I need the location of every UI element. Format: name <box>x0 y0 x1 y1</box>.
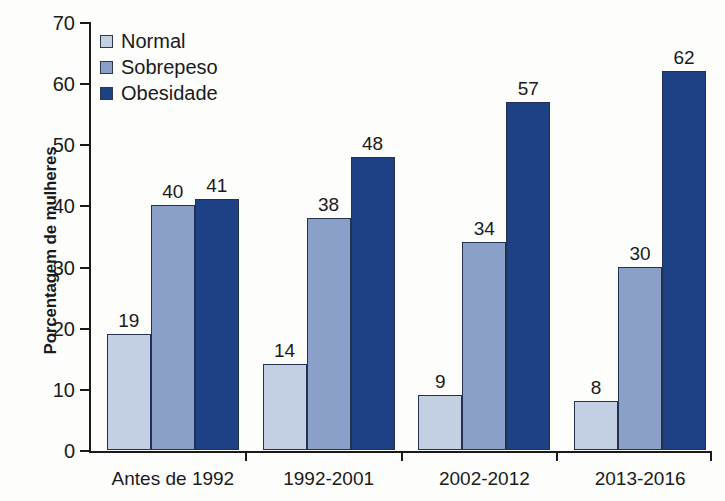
bar: 38 <box>307 218 351 450</box>
bar-value-label: 14 <box>274 340 295 362</box>
y-tick: 10 <box>80 389 89 391</box>
y-tick-label: 0 <box>64 440 75 463</box>
y-tick: 0 <box>80 450 89 452</box>
x-category-label: Antes de 1992 <box>112 468 235 490</box>
y-axis-line <box>89 22 91 453</box>
bar-chart: Porcentagem de mulheres 010203040506070 … <box>0 0 725 501</box>
x-category-label: 2002-2012 <box>439 468 530 490</box>
bar: 9 <box>418 395 462 450</box>
legend-swatch <box>100 87 113 100</box>
bar: 48 <box>351 157 395 450</box>
x-tick <box>556 452 558 461</box>
bar-value-label: 48 <box>362 133 383 155</box>
y-tick-label: 20 <box>53 317 75 340</box>
y-tick: 60 <box>80 83 89 85</box>
bar: 57 <box>506 102 550 451</box>
y-tick-label: 10 <box>53 378 75 401</box>
bar-value-label: 38 <box>318 194 339 216</box>
bar: 62 <box>662 71 706 450</box>
legend-label: Sobrepeso <box>121 56 218 79</box>
x-tick <box>710 452 712 461</box>
bar-value-label: 57 <box>518 78 539 100</box>
y-tick: 40 <box>80 205 89 207</box>
legend-item: Obesidade <box>100 80 218 106</box>
bar: 41 <box>195 199 239 450</box>
y-tick-label: 40 <box>53 195 75 218</box>
legend: NormalSobrepesoObesidade <box>100 28 218 106</box>
legend-swatch <box>100 35 113 48</box>
x-tick <box>245 452 247 461</box>
legend-item: Sobrepeso <box>100 54 218 80</box>
bar-value-label: 41 <box>206 175 227 197</box>
bar: 8 <box>574 401 618 450</box>
legend-swatch <box>100 61 113 74</box>
bar-value-label: 8 <box>591 377 602 399</box>
y-tick-label: 30 <box>53 256 75 279</box>
y-tick-label: 60 <box>53 73 75 96</box>
bar-value-label: 62 <box>674 47 695 69</box>
y-tick: 20 <box>80 328 89 330</box>
bar-value-label: 40 <box>162 181 183 203</box>
bar: 19 <box>107 334 151 450</box>
bar: 34 <box>462 242 506 450</box>
y-tick-label: 50 <box>53 134 75 157</box>
y-tick: 30 <box>80 267 89 269</box>
legend-label: Normal <box>121 30 185 53</box>
bar: 30 <box>618 267 662 450</box>
y-tick: 70 <box>80 22 89 24</box>
bar: 14 <box>263 364 307 450</box>
x-category-label: 1992-2001 <box>283 468 374 490</box>
bar-value-label: 19 <box>118 310 139 332</box>
bar-value-label: 9 <box>435 371 446 393</box>
bar: 40 <box>151 205 195 450</box>
legend-label: Obesidade <box>121 82 218 105</box>
x-tick <box>401 452 403 461</box>
x-category-label: 2013-2016 <box>595 468 686 490</box>
bar-value-label: 30 <box>630 243 651 265</box>
y-tick: 50 <box>80 144 89 146</box>
legend-item: Normal <box>100 28 218 54</box>
bar-value-label: 34 <box>474 218 495 240</box>
y-tick-label: 70 <box>53 12 75 35</box>
